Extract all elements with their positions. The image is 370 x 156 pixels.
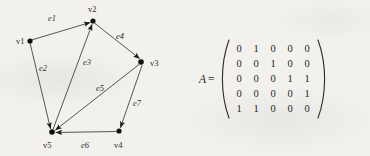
matrix-cell: 0 <box>236 59 241 70</box>
vertex-label-v1: v1 <box>16 36 25 46</box>
matrix-cell: 0 <box>236 89 241 100</box>
matrix-cell: 0 <box>270 104 275 115</box>
graph-vertex-v3 <box>138 59 144 65</box>
matrix-cell: 1 <box>287 74 292 85</box>
matrix-cell: 1 <box>236 104 241 115</box>
graph-vertex-v1 <box>27 38 32 43</box>
graph-edge-e6 <box>56 132 116 133</box>
graph-vertex-v5 <box>49 129 55 135</box>
matrix-cells: 0 1 0 0 0 0 0 1 0 0 0 0 0 1 1 0 0 0 0 1 <box>231 42 316 117</box>
matrix-cell: 1 <box>270 59 275 70</box>
matrix-cell: 0 <box>253 59 258 70</box>
scanned-figure-page: v1 v2 v3 v4 v5 e1 e2 e3 e4 e5 e6 e7 A = … <box>0 0 370 156</box>
edge-label-e1: e1 <box>48 13 56 23</box>
matrix-cell: 0 <box>253 89 258 100</box>
matrix-cell: 0 <box>236 74 241 85</box>
matrix-cell: 1 <box>253 104 258 115</box>
vertex-label-v2: v2 <box>88 4 97 14</box>
matrix-cell: 0 <box>236 44 241 55</box>
graph-drawing <box>0 0 185 156</box>
matrix-cell: 0 <box>270 89 275 100</box>
edge-label-e5: e5 <box>96 83 104 93</box>
matrix-cell: 1 <box>304 74 309 85</box>
matrix-cell: 0 <box>287 104 292 115</box>
graph-vertex-v2 <box>90 18 95 23</box>
matrix-cell: 0 <box>287 44 292 55</box>
matrix-cell: 0 <box>287 59 292 70</box>
adjacency-matrix-figure: A = 0 1 0 0 0 0 0 1 0 0 0 0 0 <box>185 0 370 156</box>
matrix-cell: 0 <box>304 104 309 115</box>
directed-graph-figure: v1 v2 v3 v4 v5 e1 e2 e3 e4 e5 e6 e7 <box>0 0 185 156</box>
edge-label-e6: e6 <box>81 140 89 150</box>
graph-edge-e7 <box>121 66 143 128</box>
equals-sign: = <box>208 73 215 85</box>
right-parenthesis <box>317 39 326 119</box>
graph-edge-e2 <box>30 43 51 129</box>
vertex-label-v5: v5 <box>43 140 52 150</box>
matrix-cell: 0 <box>287 89 292 100</box>
graph-vertex-v4 <box>116 128 121 133</box>
graph-edge-e3 <box>53 25 92 130</box>
matrix-cell: 0 <box>270 74 275 85</box>
edge-label-e3: e3 <box>83 57 91 67</box>
vertex-label-v4: v4 <box>114 140 123 150</box>
matrix-cell: 0 <box>304 59 309 70</box>
edge-label-e4: e4 <box>116 31 124 41</box>
edge-label-e2: e2 <box>39 63 47 73</box>
matrix-equation: A = 0 1 0 0 0 0 0 1 0 0 0 0 0 <box>199 36 326 122</box>
matrix-cell: 0 <box>253 74 258 85</box>
matrix-name-label: A <box>199 73 206 85</box>
graph-edge-e5 <box>56 65 140 131</box>
matrix-cell: 1 <box>304 89 309 100</box>
vertex-label-v3: v3 <box>150 58 159 68</box>
edge-label-e7: e7 <box>133 98 141 108</box>
matrix-cell: 0 <box>304 44 309 55</box>
graph-edge-e4 <box>95 24 140 59</box>
left-parenthesis <box>221 39 230 119</box>
graph-edge-e1 <box>32 23 91 41</box>
matrix-cell: 0 <box>270 44 275 55</box>
matrix-cell: 1 <box>253 44 258 55</box>
